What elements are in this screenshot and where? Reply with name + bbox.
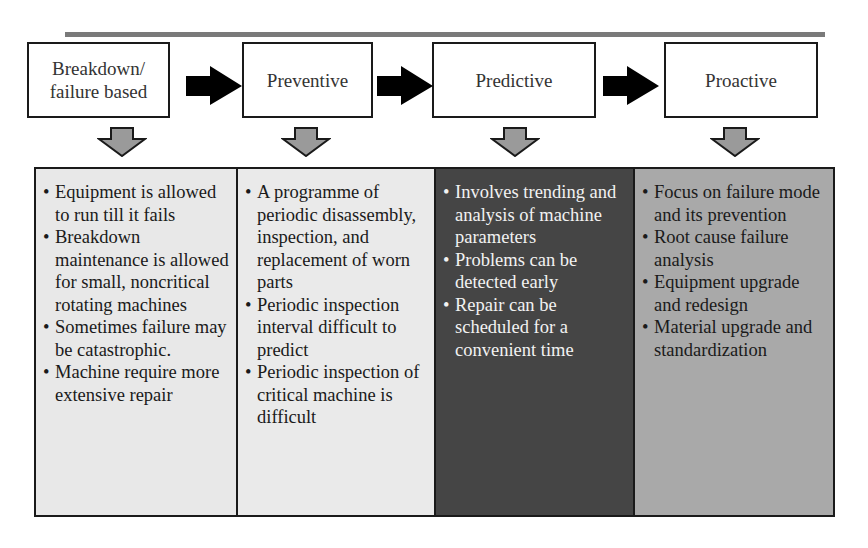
top-bar bbox=[65, 32, 825, 37]
bullet-item: A programme of periodic disassembly, ins… bbox=[245, 181, 430, 294]
down-arrow-icon bbox=[710, 127, 760, 157]
down-arrow-icon bbox=[490, 127, 540, 157]
bullet-item: Periodic inspection of critical machine … bbox=[245, 361, 430, 429]
flow-arrow-right-icon bbox=[603, 66, 661, 106]
panel-predictive: Involves trending and analysis of machin… bbox=[434, 167, 635, 517]
flow-arrow-right-icon bbox=[377, 66, 435, 106]
panel-preventive: A programme of periodic disassembly, ins… bbox=[236, 167, 436, 517]
bullet-item: Repair can be scheduled for a convenient… bbox=[443, 294, 629, 362]
bullet-item: Equipment upgrade and redesign bbox=[642, 271, 829, 316]
bullet-item: Equipment is allowed to run till it fail… bbox=[43, 181, 232, 226]
panel-breakdown: Equipment is allowed to run till it fail… bbox=[34, 167, 238, 517]
down-arrow-icon bbox=[281, 127, 331, 157]
bullet-item: Sometimes failure may be catastrophic. bbox=[43, 316, 232, 361]
panel-proactive: Focus on failure mode and its prevention… bbox=[633, 167, 835, 517]
bullet-item: Material upgrade and standardization bbox=[642, 316, 829, 361]
stage-box-preventive: Preventive bbox=[242, 42, 373, 118]
stage-box-breakdown: Breakdown/ failure based bbox=[27, 42, 170, 118]
bullet-item: Focus on failure mode and its prevention bbox=[642, 181, 829, 226]
bullet-item: Problems can be detected early bbox=[443, 249, 629, 294]
bullet-item: Root cause failure analysis bbox=[642, 226, 829, 271]
flow-arrow-right-icon bbox=[186, 66, 244, 106]
stage-box-proactive: Proactive bbox=[664, 42, 818, 118]
bullet-item: Involves trending and analysis of machin… bbox=[443, 181, 629, 249]
bullet-item: Machine require more extensive repair bbox=[43, 361, 232, 406]
stage-box-predictive: Predictive bbox=[432, 42, 596, 118]
down-arrow-icon bbox=[97, 127, 147, 157]
bullet-item: Periodic inspection interval difficult t… bbox=[245, 294, 430, 362]
bullet-item: Breakdown maintenance is allowed for sma… bbox=[43, 226, 232, 316]
